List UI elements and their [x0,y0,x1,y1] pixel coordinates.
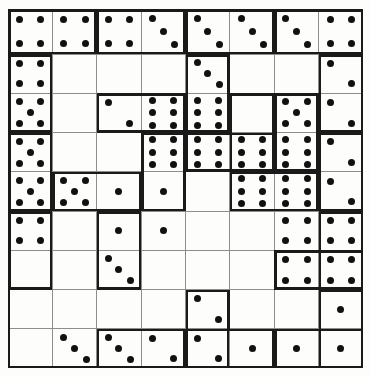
board-outer-border [8,9,363,368]
domino-puzzle-board [0,0,371,377]
